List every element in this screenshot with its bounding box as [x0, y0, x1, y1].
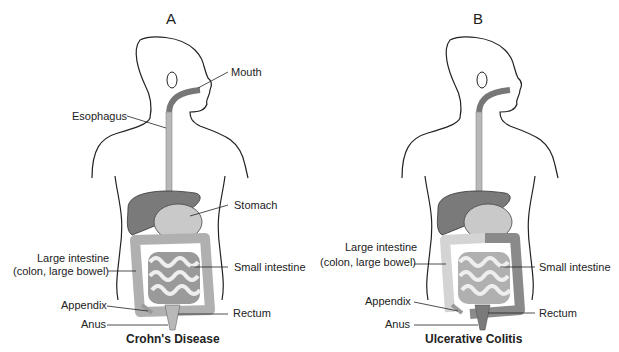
body-figure-ulcerative-colitis	[310, 0, 619, 352]
caption-ulcerative-colitis: Ulcerative Colitis	[425, 332, 522, 346]
label-mouth: Mouth	[231, 66, 262, 79]
label-esophagus: Esophagus	[72, 110, 127, 123]
label-rectum: Rectum	[233, 307, 271, 320]
caption-crohns-disease: Crohn's Disease	[126, 332, 220, 346]
label-appendix: Appendix	[61, 299, 107, 312]
label-large-intestine: Large intestine	[345, 241, 413, 254]
body-figure-crohns	[0, 0, 310, 352]
label-small-intestine: Small intestine	[539, 261, 611, 274]
label-large-intestine-sub: (colon, large bowel)	[13, 265, 109, 278]
label-anus: Anus	[81, 318, 106, 331]
label-small-intestine: Small intestine	[234, 261, 306, 274]
panel-crohns-disease: A Mouth E	[0, 0, 310, 352]
label-anus: Anus	[385, 318, 410, 331]
label-rectum: Rectum	[539, 307, 577, 320]
label-large-intestine-sub: (colon, large bowel)	[320, 256, 416, 269]
label-large-intestine: Large intestine	[37, 252, 105, 265]
label-stomach: Stomach	[234, 199, 277, 212]
panel-ulcerative-colitis: B Large intestine (colon, large bowel) S…	[310, 0, 619, 352]
label-appendix: Appendix	[365, 295, 411, 308]
